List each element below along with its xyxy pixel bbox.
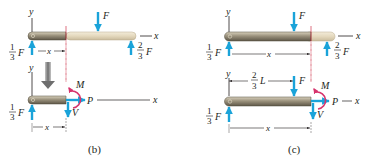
y-axis-label: y xyxy=(225,68,231,79)
normal-force-label: P xyxy=(331,96,338,107)
right-reaction-label: F xyxy=(342,46,350,57)
panel-b-bottom: y P x V M 1 3 F x xyxy=(9,62,158,132)
left-reaction-label: F xyxy=(17,47,25,58)
x-axis-label: x xyxy=(153,30,159,41)
beam-free-body xyxy=(28,96,66,104)
transition-arrow-icon xyxy=(41,62,55,89)
svg-text:2: 2 xyxy=(252,70,257,80)
svg-text:3: 3 xyxy=(10,52,15,62)
load-position-label: L xyxy=(259,75,266,86)
svg-text:1: 1 xyxy=(10,42,15,52)
moment-label: M xyxy=(320,80,330,91)
caption-c: (c) xyxy=(288,143,301,156)
svg-text:3: 3 xyxy=(335,51,340,61)
dimension-label: x xyxy=(266,49,271,59)
right-reaction-label: F xyxy=(145,46,153,57)
beam-cut-segment xyxy=(28,32,66,40)
dimension-label: x xyxy=(44,122,49,132)
caption-b: (b) xyxy=(88,143,101,156)
svg-text:1: 1 xyxy=(10,102,15,112)
shear-force-label: V xyxy=(317,109,325,120)
y-axis-label: y xyxy=(28,62,34,73)
left-reaction-label: F xyxy=(17,107,25,118)
y-axis-label: y xyxy=(28,6,34,17)
load-label: F xyxy=(298,10,306,21)
svg-text:3: 3 xyxy=(252,81,257,91)
free-body-diagram: y x F 1 3 F 2 3 F x xyxy=(0,0,373,168)
beam-free-body xyxy=(225,97,312,106)
x-axis-label: x xyxy=(152,94,158,105)
svg-text:3: 3 xyxy=(207,52,212,62)
svg-text:3: 3 xyxy=(10,112,15,122)
beam-cut-segment xyxy=(225,32,312,41)
svg-text:3: 3 xyxy=(207,116,212,126)
panel-c-bottom: y 2 3 L F P x V M 1 3 F x xyxy=(206,68,360,133)
svg-text:3: 3 xyxy=(138,51,143,61)
beam-remaining-segment xyxy=(66,32,136,40)
left-reaction-label: F xyxy=(214,111,222,122)
load-label: F xyxy=(102,10,110,21)
y-axis-label: y xyxy=(225,6,231,17)
normal-force-label: P xyxy=(86,95,93,106)
dimension-label: x xyxy=(46,46,51,56)
x-axis-label: x xyxy=(355,30,361,41)
svg-text:1: 1 xyxy=(207,42,212,52)
moment-label: M xyxy=(75,79,85,90)
left-reaction-label: F xyxy=(214,47,222,58)
svg-text:1: 1 xyxy=(207,106,212,116)
x-axis-label: x xyxy=(354,95,360,106)
load-label: F xyxy=(298,75,306,86)
dimension-label: x xyxy=(265,123,270,133)
svg-text:2: 2 xyxy=(335,40,340,50)
svg-text:2: 2 xyxy=(138,40,143,50)
